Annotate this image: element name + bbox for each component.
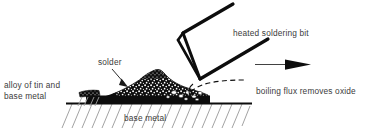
- label-base-metal: base metal: [124, 113, 166, 124]
- label-heated-soldering-bit: heated soldering bit: [233, 28, 309, 39]
- flux-front-dashed: [191, 80, 244, 92]
- motion-arrow: [255, 60, 311, 70]
- label-solder: solder: [98, 57, 122, 68]
- leader-lines: [112, 69, 128, 87]
- label-alloy-of-tin: alloy of tin and base metal: [4, 80, 60, 101]
- soldering-bit: [178, 4, 268, 79]
- label-boiling-flux: boiling flux removes oxide: [256, 86, 356, 97]
- diagram-canvas: [0, 0, 381, 137]
- soldering-diagram: alloy of tin and base metal solder heate…: [0, 0, 381, 137]
